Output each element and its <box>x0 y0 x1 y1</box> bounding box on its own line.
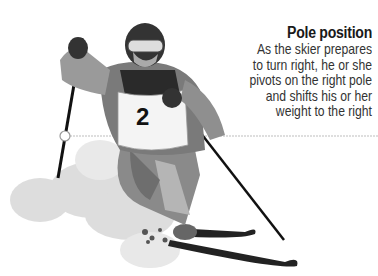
boot <box>173 224 197 240</box>
annotation-title: Pole position <box>187 24 372 42</box>
left-glove <box>68 37 88 59</box>
ski-back <box>168 240 298 267</box>
pointer-dot <box>60 131 70 141</box>
annotation-line: As the skier prepares <box>196 42 372 58</box>
annotation-line: to turn right, he or she <box>196 58 372 74</box>
annotation-line: weight to the right <box>196 104 372 120</box>
annotation-line: and shifts his or her <box>196 89 372 105</box>
bib-number: 2 <box>136 103 149 130</box>
annotation-line: pivots on the right pole <box>196 73 372 89</box>
goggles <box>128 40 163 52</box>
annotation-callout: Pole position As the skier prepares to t… <box>162 24 372 120</box>
